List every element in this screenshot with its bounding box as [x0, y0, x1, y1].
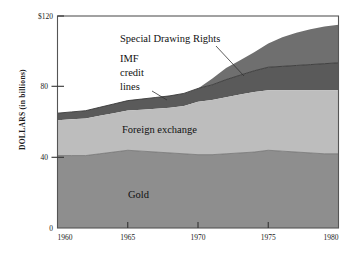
- y-axis-title: DOLLARS (in billions): [18, 69, 27, 150]
- y-tick-label-40: 40: [41, 153, 49, 162]
- area-gold: [58, 150, 339, 228]
- label-foreign-exchange: Foreign exchange: [122, 124, 197, 135]
- x-tick-label-1970: 1970: [191, 233, 206, 242]
- label-imf-line-2: credit: [120, 67, 144, 78]
- y-tick-label-0: 0: [49, 224, 53, 233]
- label-gold: Gold: [128, 189, 150, 200]
- x-tick-label-1965: 1965: [120, 233, 135, 242]
- x-tick-label-1980: 1980: [324, 233, 339, 242]
- x-tick-label-1975: 1975: [261, 233, 276, 242]
- chart-svg: $120 80 40 0 1960 1965 1970 1975 1980 DO…: [0, 0, 360, 256]
- label-special-drawing-rights: Special Drawing Rights: [120, 33, 220, 44]
- stacked-area-chart: $120 80 40 0 1960 1965 1970 1975 1980 DO…: [0, 0, 360, 256]
- label-imf-line-1: IMF: [120, 53, 139, 64]
- y-tick-label-120: $120: [38, 12, 53, 21]
- x-tick-label-1960: 1960: [58, 233, 73, 242]
- y-tick-label-80: 80: [41, 82, 49, 91]
- label-imf-line-3: lines: [120, 81, 140, 92]
